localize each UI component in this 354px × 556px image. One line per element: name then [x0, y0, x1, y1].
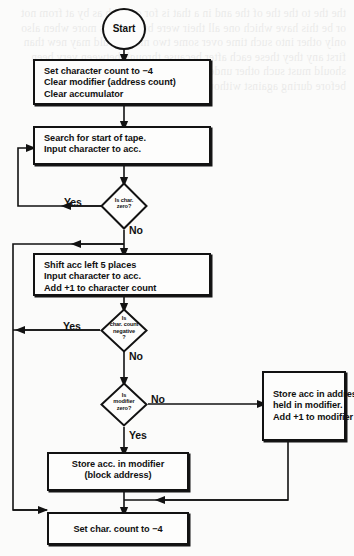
node-shift-line-1: Shift acc left 5 places [44, 260, 209, 271]
node-is-char-zero-line-2: zero? [87, 203, 161, 209]
node-shift-acc: Shift acc left 5 places Input character … [33, 253, 211, 296]
node-start-label: Start [113, 23, 136, 34]
node-set-char-count-line-1: Set char. count to −4 [49, 524, 187, 535]
node-store-acc-address-line-1: Store acc in address [273, 389, 344, 400]
node-store-acc-address: Store acc in address held in modifier. A… [262, 371, 346, 441]
edge-label-count-negative-yes: Yes [63, 320, 81, 332]
flowchart-page: the the to the the of the and in a that … [0, 0, 354, 556]
node-is-count-negative-line-4: ? [87, 334, 161, 340]
node-init-line-2: Clear modifier (address count) [44, 77, 209, 88]
edge-label-modifier-zero-yes: Yes [129, 429, 147, 441]
node-shift-line-3: Add +1 to character count [44, 283, 209, 294]
node-init-line-3: Clear accumulator [44, 89, 209, 100]
node-init: Set character count to −4 Clear modifier… [33, 59, 211, 105]
node-store-acc-address-line-3: Add +1 to modifier [273, 412, 344, 423]
edge-label-char-zero-yes: Yes [64, 196, 82, 208]
node-is-char-zero-label: Is char. zero? [87, 197, 161, 210]
edge-label-modifier-zero-no: No [151, 393, 165, 405]
node-is-modifier-zero-line-3: zero? [87, 405, 161, 411]
node-set-char-count: Set char. count to −4 [47, 512, 189, 545]
node-shift-line-2: Input character to acc. [44, 271, 209, 282]
node-search-line-2: Input character to acc. [44, 144, 209, 155]
edge-label-count-negative-no: No [129, 350, 143, 362]
node-store-acc-modifier-line-2: (block address) [49, 470, 187, 481]
node-init-line-1: Set character count to −4 [44, 66, 209, 77]
node-start: Start [102, 8, 146, 50]
node-search-tape: Search for start of tape. Input characte… [33, 126, 211, 165]
edge-label-char-zero-no: No [129, 224, 143, 236]
node-is-count-negative-label: Is char. count negative ? [87, 315, 161, 341]
node-store-acc-modifier: Store acc. in modifier (block address) [47, 452, 189, 491]
node-store-acc-modifier-line-1: Store acc. in modifier [49, 459, 187, 470]
node-is-modifier-zero-label: Is modifier zero? [87, 392, 161, 411]
node-store-acc-address-line-2: held in modifier. [273, 400, 344, 411]
node-search-line-1: Search for start of tape. [44, 133, 209, 144]
